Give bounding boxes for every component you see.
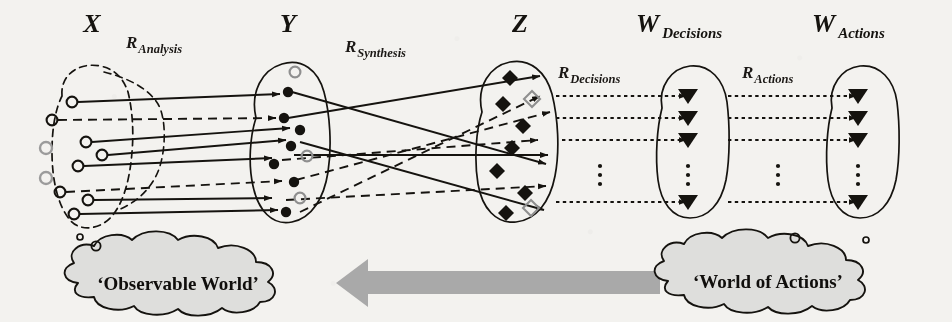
cloud-label-world-of-actions: ‘World of Actions’	[693, 271, 843, 292]
node-y	[281, 207, 291, 217]
node-y	[283, 87, 293, 97]
node-x	[81, 137, 92, 148]
node-y-faint	[290, 67, 301, 78]
nodes-set-X	[40, 97, 107, 220]
set-label-X: X	[82, 9, 101, 38]
node-y	[295, 125, 305, 135]
node-z	[498, 205, 514, 221]
nodes-set-WActions	[848, 89, 868, 210]
node-z	[502, 70, 518, 86]
ellipsis-r-decisions	[598, 164, 602, 186]
relation-label-r-actions: RActions	[741, 63, 793, 86]
nodes-set-Y	[269, 67, 313, 218]
cloud-bubble	[863, 237, 869, 243]
node-y	[289, 177, 299, 187]
set-boundary-X	[52, 65, 164, 228]
node-x	[83, 195, 94, 206]
edges-r-actions	[728, 96, 856, 202]
cloud-bubble	[77, 234, 83, 240]
ellipsis-w-decisions	[686, 164, 690, 186]
relation-label-r-decisions: RDecisions	[557, 63, 620, 86]
feedback-arrow	[336, 259, 660, 307]
node-x	[69, 209, 80, 220]
relation-label-r-analysis: RAnalysis	[125, 33, 182, 56]
cloud-world-of-actions: ‘World of Actions’	[655, 229, 869, 313]
node-x-faint	[40, 142, 52, 154]
node-z	[495, 96, 511, 112]
ellipsis-marks	[598, 164, 860, 186]
node-x-faint	[40, 172, 52, 184]
edges-r-decisions	[556, 96, 686, 202]
node-x	[97, 150, 108, 161]
cloud-observable-world: ‘Observable World’	[65, 231, 275, 315]
node-x	[47, 115, 58, 126]
set-label-Z: Z	[511, 9, 528, 38]
node-z	[489, 163, 505, 179]
node-y-faint	[295, 193, 306, 204]
nodes-set-Z	[489, 70, 540, 221]
node-x	[73, 161, 84, 172]
diagram-canvas: X Y Z WDecisions WActions RAnalysis RSyn…	[0, 0, 952, 322]
set-label-W-decisions: WDecisions	[636, 9, 722, 41]
ellipsis-r-actions	[776, 164, 780, 186]
relation-label-r-synthesis: RSynthesis	[344, 37, 406, 60]
node-y	[286, 141, 296, 151]
ellipsis-w-actions	[856, 164, 860, 186]
set-label-Y: Y	[280, 9, 298, 38]
nodes-set-WDecisions	[678, 89, 698, 210]
node-y	[269, 159, 279, 169]
mapping-diagram: X Y Z WDecisions WActions RAnalysis RSyn…	[0, 0, 952, 322]
node-x	[67, 97, 78, 108]
node-y	[279, 113, 289, 123]
cloud-label-observable-world: ‘Observable World’	[97, 273, 259, 294]
set-label-W-actions: WActions	[812, 9, 885, 41]
node-y-faint	[302, 151, 313, 162]
